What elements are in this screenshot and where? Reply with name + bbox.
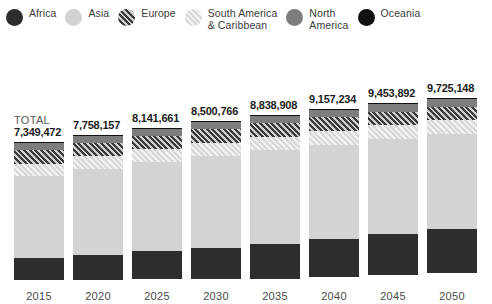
- bar-segment-africa[interactable]: [14, 258, 64, 280]
- bar-segment-northamerica[interactable]: [427, 99, 477, 107]
- bar-total-label-2030: 8,500,766: [191, 105, 241, 118]
- bar-segment-europe[interactable]: [73, 143, 123, 157]
- stacked-bar[interactable]: [250, 115, 300, 280]
- legend-item-label: Africa: [29, 8, 56, 20]
- bar-segment-northamerica[interactable]: [191, 122, 241, 129]
- bar-segment-northamerica[interactable]: [14, 143, 64, 150]
- bar-segment-southamerica[interactable]: [368, 125, 418, 139]
- bar-segment-europe[interactable]: [250, 123, 300, 137]
- stacked-bar[interactable]: [73, 135, 123, 280]
- legend-item-northamerica[interactable]: North America: [286, 8, 348, 31]
- bar-total-label-2045: 9,453,892: [368, 87, 418, 100]
- bar-segment-northamerica[interactable]: [368, 104, 418, 112]
- legend-item-label: Asia: [88, 8, 109, 20]
- bar-segment-southamerica[interactable]: [309, 131, 359, 145]
- bar-segment-europe[interactable]: [427, 107, 477, 120]
- bar-segment-europe[interactable]: [368, 112, 418, 125]
- stacked-bar[interactable]: [191, 121, 241, 280]
- bar-segment-asia[interactable]: [250, 150, 300, 244]
- total-value: 7,758,157: [73, 119, 123, 132]
- bar-segment-europe[interactable]: [309, 117, 359, 130]
- bar-total-label-2040: 9,157,234: [309, 93, 359, 106]
- total-value: 8,141,661: [132, 112, 182, 125]
- bar-segment-northamerica[interactable]: [250, 116, 300, 124]
- bar-total-label-2025: 8,141,661: [132, 112, 182, 125]
- bar-segment-asia[interactable]: [368, 139, 418, 235]
- bar-segment-asia[interactable]: [132, 162, 182, 251]
- circle-swatch-europe-icon: [118, 9, 135, 26]
- bar-segment-southamerica[interactable]: [73, 156, 123, 168]
- circle-swatch-asia-icon: [65, 9, 82, 26]
- stacked-bar[interactable]: [14, 142, 64, 280]
- x-axis-label-2050: 2050: [427, 290, 477, 302]
- legend-item-label: North America: [309, 8, 348, 31]
- total-value: 8,500,766: [191, 105, 241, 118]
- legend-item-europe[interactable]: Europe: [118, 8, 175, 26]
- bar-segment-africa[interactable]: [132, 251, 182, 279]
- circle-swatch-north-america-icon: [286, 9, 303, 26]
- stacked-bar-chart: TOTAL7,349,47220157,758,15720208,141,661…: [0, 40, 492, 304]
- circle-swatch-africa-icon: [6, 9, 23, 26]
- legend-item-label: South America & Caribbean: [208, 8, 278, 31]
- legend-item-africa[interactable]: Africa: [6, 8, 56, 26]
- bar-segment-southamerica[interactable]: [427, 120, 477, 134]
- x-axis-label-2040: 2040: [309, 290, 359, 302]
- total-value: 9,453,892: [368, 87, 418, 100]
- bar-segment-africa[interactable]: [368, 234, 418, 275]
- total-value: 9,157,234: [309, 93, 359, 106]
- bar-segment-africa[interactable]: [73, 255, 123, 280]
- circle-swatch-oceania-icon: [358, 9, 375, 26]
- stacked-bar[interactable]: [368, 103, 418, 280]
- bar-segment-africa[interactable]: [309, 239, 359, 277]
- legend-item-oceania[interactable]: Oceania: [358, 8, 421, 26]
- x-axis-label-2020: 2020: [73, 290, 123, 302]
- stacked-bar[interactable]: [132, 128, 182, 280]
- bar-segment-asia[interactable]: [191, 156, 241, 247]
- x-axis-label-2035: 2035: [250, 290, 300, 302]
- chart-legend: AfricaAsiaEuropeSouth America & Caribbea…: [0, 0, 492, 40]
- x-axis-label-2045: 2045: [368, 290, 418, 302]
- total-value: 9,725,148: [427, 82, 477, 95]
- bar-segment-southamerica[interactable]: [191, 143, 241, 156]
- bar-segment-asia[interactable]: [309, 145, 359, 240]
- x-axis-label-2030: 2030: [191, 290, 241, 302]
- x-axis-label-2015: 2015: [14, 290, 64, 302]
- stacked-bar[interactable]: [427, 98, 477, 280]
- bar-segment-africa[interactable]: [191, 248, 241, 279]
- bar-segment-northamerica[interactable]: [132, 129, 182, 136]
- bar-total-label-2035: 8,838,908: [250, 99, 300, 112]
- total-caption: TOTAL: [14, 114, 64, 126]
- bar-segment-southamerica[interactable]: [14, 164, 64, 176]
- x-axis-label-2025: 2025: [132, 290, 182, 302]
- bar-segment-asia[interactable]: [427, 134, 477, 230]
- legend-item-label: Oceania: [381, 8, 421, 20]
- bar-segment-asia[interactable]: [14, 176, 64, 258]
- bar-segment-europe[interactable]: [132, 136, 182, 150]
- bar-segment-northamerica[interactable]: [73, 136, 123, 143]
- legend-item-southamerica[interactable]: South America & Caribbean: [185, 8, 278, 31]
- bar-segment-southamerica[interactable]: [250, 137, 300, 151]
- legend-item-label: Europe: [141, 8, 175, 20]
- bar-total-label-2020: 7,758,157: [73, 119, 123, 132]
- legend-item-asia[interactable]: Asia: [65, 8, 109, 26]
- bar-segment-northamerica[interactable]: [309, 110, 359, 118]
- circle-swatch-south-america-icon: [185, 9, 202, 26]
- stacked-bar[interactable]: [309, 109, 359, 280]
- bar-segment-africa[interactable]: [250, 244, 300, 279]
- bar-total-label-2015: TOTAL7,349,472: [14, 114, 64, 139]
- bar-segment-africa[interactable]: [427, 229, 477, 273]
- bar-segment-europe[interactable]: [14, 150, 64, 164]
- bar-segment-europe[interactable]: [191, 129, 241, 143]
- total-value: 8,838,908: [250, 99, 300, 112]
- total-value: 7,349,472: [14, 126, 64, 139]
- bar-segment-southamerica[interactable]: [132, 149, 182, 162]
- bar-segment-asia[interactable]: [73, 169, 123, 255]
- bar-total-label-2050: 9,725,148: [427, 82, 477, 95]
